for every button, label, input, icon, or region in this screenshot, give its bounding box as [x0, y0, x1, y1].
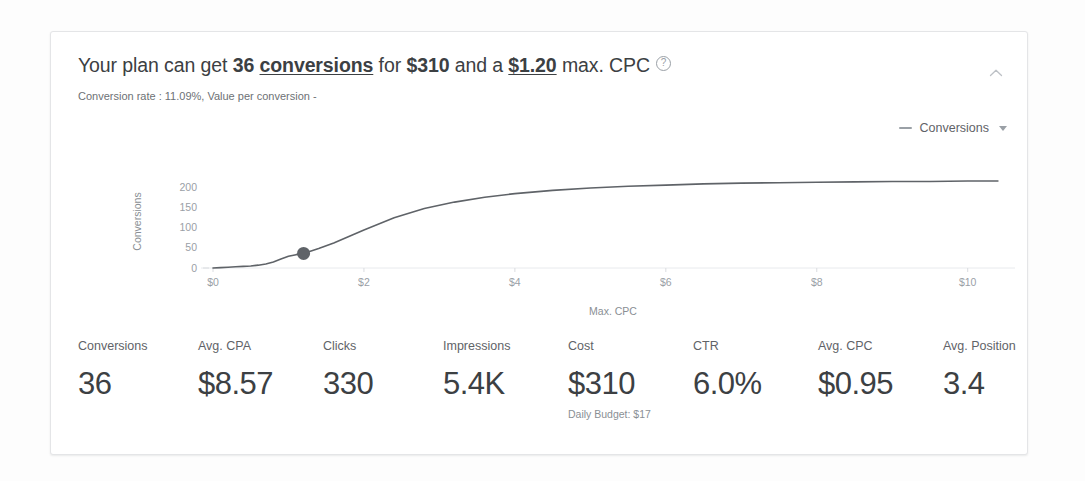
x-axis-tick-label: $4 [509, 276, 521, 288]
headline-part-3: and a [449, 54, 508, 76]
metric-avg-cpc: Avg. CPC$0.95 [818, 338, 893, 404]
metric-value: $310 [568, 364, 651, 404]
metric-value: 6.0% [693, 364, 762, 404]
headline-part-4: max. CPC [557, 54, 650, 76]
chevron-down-icon[interactable] [999, 126, 1007, 131]
metric-value: 330 [323, 364, 373, 404]
metric-value: 3.4 [943, 364, 1016, 404]
metric-ctr: CTR6.0% [693, 338, 762, 404]
metric-label: Cost [568, 338, 651, 354]
y-axis-tick-label: 100 [179, 221, 197, 233]
metric-conversions: Conversions36 [78, 338, 147, 404]
chevron-up-icon[interactable] [983, 60, 1009, 86]
y-axis-tick-label: 0 [191, 262, 197, 274]
x-axis-tick-label: $0 [207, 276, 219, 288]
metric-clicks: Clicks330 [323, 338, 373, 404]
line-dash-marker-icon [899, 127, 912, 129]
metric-label: Impressions [443, 338, 510, 354]
metric-value: $0.95 [818, 364, 893, 404]
headline-conversions-link[interactable]: conversions [260, 54, 374, 76]
metric-impressions: Impressions5.4K [443, 338, 510, 404]
chart-metric-selector[interactable]: Conversions [899, 121, 1007, 135]
metric-value: 5.4K [443, 364, 510, 404]
help-circle-icon[interactable] [656, 56, 671, 71]
metric-sublabel: Daily Budget: $17 [568, 407, 651, 421]
metric-label: Avg. CPA [198, 338, 273, 354]
x-axis-tick-label: $2 [358, 276, 370, 288]
x-axis-title: Max. CPC [589, 305, 637, 317]
metric-label: Conversions [78, 338, 147, 354]
x-axis-tick-label: $6 [660, 276, 672, 288]
y-axis-title: Conversions [131, 192, 143, 250]
metric-label: Avg. Position [943, 338, 1016, 354]
x-axis-tick-label: $10 [959, 276, 977, 288]
chart-canvas: $0$2$4$6$8$10050100150200ConversionsMax.… [51, 137, 1027, 327]
headline-cost: $310 [406, 54, 449, 76]
metric-label: Avg. CPC [818, 338, 893, 354]
conversions-line-series [213, 181, 998, 268]
y-axis-tick-label: 200 [179, 181, 197, 193]
y-axis-tick-label: 50 [185, 241, 197, 253]
headline-part-1: Your plan can get [78, 54, 233, 76]
metric-avg-position: Avg. Position3.4 [943, 338, 1016, 404]
metric-avg-cpa: Avg. CPA$8.57 [198, 338, 273, 404]
page-title: Your plan can get 36 conversions for $31… [78, 53, 671, 77]
legend-label: Conversions [920, 121, 989, 135]
metric-value: $8.57 [198, 364, 273, 404]
screenshot-root: Your plan can get 36 conversions for $31… [0, 0, 1085, 481]
y-axis-tick-label: 150 [179, 201, 197, 213]
metrics-row: Conversions36Avg. CPA$8.57Clicks330Impre… [78, 338, 1003, 428]
metric-value: 36 [78, 364, 147, 404]
headline-max-cpc-link[interactable]: $1.20 [508, 54, 556, 76]
headline-conversions-count: 36 [233, 54, 255, 76]
metric-cost: Cost$310Daily Budget: $17 [568, 338, 651, 421]
conversion-rate-subtitle: Conversion rate : 11.09%, Value per conv… [78, 89, 317, 103]
metric-label: Clicks [323, 338, 373, 354]
x-axis-tick-label: $8 [811, 276, 823, 288]
metric-label: CTR [693, 338, 762, 354]
forecast-chart: $0$2$4$6$8$10050100150200ConversionsMax.… [51, 137, 1027, 327]
headline-part-2: for [373, 54, 406, 76]
plan-forecast-card: Your plan can get 36 conversions for $31… [50, 31, 1028, 455]
selected-plan-point-marker[interactable] [297, 247, 310, 260]
